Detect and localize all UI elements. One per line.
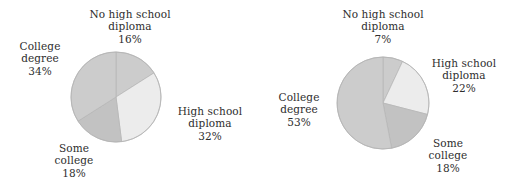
label-value: 22% xyxy=(419,82,509,94)
pie-chart-right: No high school diploma 7% High school di… xyxy=(255,0,510,195)
label-name-line1: College xyxy=(2,40,78,52)
label-name-line1: Some xyxy=(405,137,491,149)
label-right-college-degree: College degree 53% xyxy=(261,91,337,128)
label-name-line2: diploma xyxy=(78,20,182,32)
label-name-line2: diploma xyxy=(166,117,254,129)
label-value: 7% xyxy=(330,33,436,45)
label-name-line1: High school xyxy=(166,105,254,117)
label-name-line1: College xyxy=(261,91,337,103)
label-name-line1: Some xyxy=(36,142,112,154)
label-name-line2: college xyxy=(36,154,112,166)
pie-chart-left: No high school diploma 16% College degre… xyxy=(0,0,255,195)
label-name-line2: diploma xyxy=(330,20,436,32)
label-value: 34% xyxy=(2,65,78,77)
label-name-line2: college xyxy=(405,149,491,161)
label-left-some-college: Some college 18% xyxy=(36,142,112,179)
label-name-line1: High school xyxy=(419,57,509,69)
label-value: 32% xyxy=(166,130,254,142)
label-left-college-degree: College degree 34% xyxy=(2,40,78,77)
label-value: 18% xyxy=(405,162,491,174)
label-value: 16% xyxy=(78,33,182,45)
label-left-no-high-school-diploma: No high school diploma 16% xyxy=(78,8,182,45)
label-left-high-school-diploma: High school diploma 32% xyxy=(166,105,254,142)
label-value: 53% xyxy=(261,116,337,128)
label-name-line2: degree xyxy=(261,103,337,115)
label-right-some-college: Some college 18% xyxy=(405,137,491,174)
two-pie-chart-figure: No high school diploma 16% College degre… xyxy=(0,0,510,195)
label-value: 18% xyxy=(36,167,112,179)
label-name-line1: No high school xyxy=(330,8,436,20)
label-name-line1: No high school xyxy=(78,8,182,20)
label-right-no-high-school-diploma: No high school diploma 7% xyxy=(330,8,436,45)
label-name-line2: degree xyxy=(2,52,78,64)
label-name-line2: diploma xyxy=(419,69,509,81)
label-right-high-school-diploma: High school diploma 22% xyxy=(419,57,509,94)
